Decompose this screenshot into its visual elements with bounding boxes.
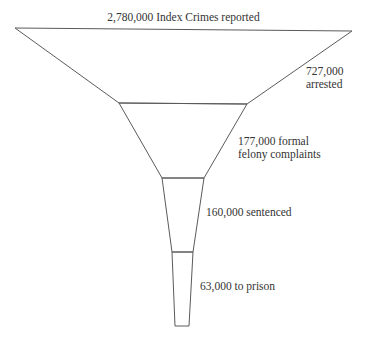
label-arrested-text: arrested (306, 78, 343, 91)
label-complaints-line2: felony complaints (238, 148, 321, 161)
label-complaints: 177,000 formal felony complaints (238, 135, 321, 161)
funnel-segment-complaints (162, 178, 204, 252)
funnel-segment-reported (15, 28, 352, 104)
funnel-segment-sentenced (172, 252, 193, 326)
label-arrested-count: 727,000 (306, 65, 343, 78)
label-prison: 63,000 to prison (200, 280, 275, 293)
label-reported: 2,780,000 Index Crimes reported (0, 11, 367, 24)
funnel-segment-arrested (119, 103, 247, 178)
funnel-diagram (0, 0, 367, 343)
label-arrested: 727,000 arrested (306, 65, 343, 91)
label-complaints-line1: 177,000 formal (238, 135, 321, 148)
label-sentenced: 160,000 sentenced (206, 206, 292, 219)
